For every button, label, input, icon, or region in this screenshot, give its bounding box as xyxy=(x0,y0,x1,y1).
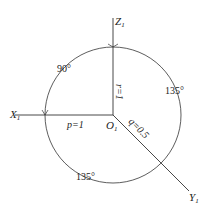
axonometric-diagram: Z1 X1 Y1 O1 p=1 q=0.5 r=1 90° 135° 135° xyxy=(0,0,211,205)
p-coefficient-label: p=1 xyxy=(66,119,84,130)
origin-label: O1 xyxy=(106,119,117,133)
y-axis xyxy=(113,115,189,191)
r-coefficient-label: r=1 xyxy=(114,84,125,100)
x-axis-label: X1 xyxy=(9,108,20,122)
z-axis-label: Z1 xyxy=(115,15,125,29)
angle-label-90: 90° xyxy=(57,63,71,74)
y-axis-label: Y1 xyxy=(189,191,199,205)
angle-label-135-bottom: 135° xyxy=(76,171,95,182)
angle-label-135-right: 135° xyxy=(165,85,184,96)
q-coefficient-label: q=0.5 xyxy=(127,116,152,141)
